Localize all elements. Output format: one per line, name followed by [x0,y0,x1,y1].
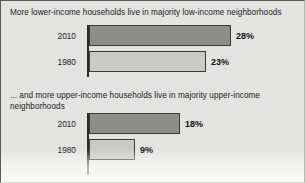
bar-lower-income-1980 [89,51,206,72]
category-label-1980: 1980 [16,57,76,67]
chart-panel-upper-income: ... and more upper-income households liv… [1,85,304,183]
chart-figure: More lower-income households live in maj… [0,0,305,183]
panel-title-lower-income: More lower-income households live in maj… [10,8,298,19]
category-label-2010: 2010 [16,31,76,41]
bar-lower-income-2010 [89,25,231,46]
plot-area-upper-income: 2010 18% 1980 9% [1,113,304,175]
bar-row: 2010 18% [1,113,304,135]
bar-upper-income-1980 [89,139,135,160]
chart-panel-lower-income: More lower-income households live in maj… [1,1,304,85]
category-label-1980: 1980 [16,145,76,155]
bar-row: 2010 28% [1,25,304,47]
bar-upper-income-2010 [89,113,180,134]
value-label-upper-income-1980: 9% [140,145,153,155]
plot-area-lower-income: 2010 28% 1980 23% [1,25,304,77]
value-label-upper-income-2010: 18% [185,119,203,129]
panel-title-upper-income: ... and more upper-income households liv… [10,91,298,112]
bar-row: 1980 9% [1,139,304,161]
value-label-lower-income-2010: 28% [236,31,254,41]
bar-row: 1980 23% [1,51,304,73]
category-label-2010: 2010 [16,119,76,129]
value-label-lower-income-1980: 23% [211,57,229,67]
